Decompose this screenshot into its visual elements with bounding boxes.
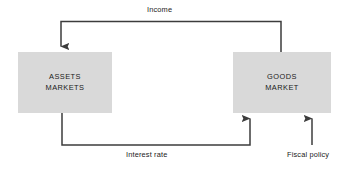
node-assets-markets: ASSETS MARKETS [18,52,112,113]
edge-label-fiscal-policy: Fiscal policy [287,150,329,159]
income-arrow-path [61,22,281,53]
interest-rate-arrow-path [62,113,250,145]
node-assets-markets-label: ASSETS MARKETS [46,72,85,93]
diagram-canvas: ASSETS MARKETS GOODS MARKET Income Inter… [0,0,352,171]
edge-label-interest-rate: Interest rate [126,150,167,159]
node-goods-market: GOODS MARKET [233,52,331,113]
edge-label-income: Income [147,5,172,14]
node-goods-market-label: GOODS MARKET [265,72,299,93]
